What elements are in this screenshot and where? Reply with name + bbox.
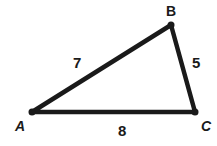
vertex-label-a: A — [14, 118, 25, 134]
side-label-ac: 8 — [118, 122, 126, 139]
side-label-bc: 5 — [192, 54, 200, 71]
vertex-c-dot — [192, 109, 199, 116]
vertex-b-dot — [168, 22, 175, 29]
triangle-abc — [32, 25, 195, 112]
side-label-ab: 7 — [73, 54, 81, 71]
vertex-a-dot — [29, 109, 36, 116]
vertex-label-b: B — [166, 3, 176, 19]
vertex-label-c: C — [201, 118, 212, 134]
triangle-diagram: B A C 7 5 8 — [0, 0, 217, 146]
